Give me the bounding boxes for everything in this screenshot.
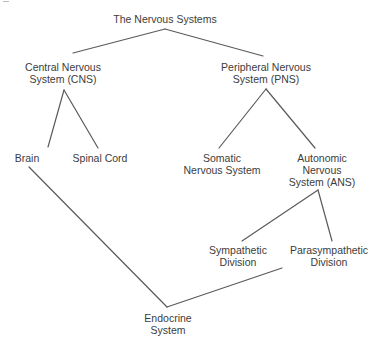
node-ans-line-2: Nervous (289, 164, 356, 176)
node-root-label: The Nervous Systems (113, 13, 216, 25)
node-endocrine: Endocrine System (144, 312, 191, 336)
edge-cns-brain (48, 90, 64, 147)
edge-pns-ans (266, 89, 315, 148)
node-ans: Autonomic Nervous System (ANS) (289, 152, 356, 188)
edge-root-cns (73, 29, 165, 53)
edge-root-pns (165, 29, 263, 56)
node-endocrine-line-2: System (144, 324, 191, 336)
node-sympathetic: Sympathetic Division (209, 244, 267, 268)
node-sympathetic-line-2: Division (209, 256, 267, 268)
node-parasympathetic-line-2: Division (290, 256, 368, 268)
node-endocrine-line-1: Endocrine (144, 312, 191, 324)
node-ans-line-1: Autonomic (289, 152, 356, 164)
node-root: The Nervous Systems (113, 13, 216, 25)
node-cns-line-2: System (CNS) (25, 73, 101, 85)
node-cns: Central Nervous System (CNS) (25, 61, 101, 85)
node-parasympathetic: Parasympathetic Division (290, 244, 368, 268)
node-somatic-line-2: Nervous System (183, 164, 260, 176)
node-somatic-line-1: Somatic (183, 152, 260, 164)
node-parasympathetic-line-1: Parasympathetic (290, 244, 368, 256)
node-brain-label: Brain (15, 152, 40, 164)
edge-ans-parasympathetic (318, 190, 332, 241)
edge-brain-endocrine (29, 167, 167, 307)
node-pns-line-2: System (PNS) (221, 73, 311, 85)
node-cns-line-1: Central Nervous (25, 61, 101, 73)
edge-cns-spinal-cord (64, 90, 98, 148)
node-ans-line-3: System (ANS) (289, 176, 356, 188)
node-pns: Peripheral Nervous System (PNS) (221, 61, 311, 85)
node-spinal-cord: Spinal Cord (73, 152, 128, 164)
edge-ans-sympathetic (242, 190, 318, 241)
node-pns-line-1: Peripheral Nervous (221, 61, 311, 73)
node-brain: Brain (15, 152, 40, 164)
node-somatic: Somatic Nervous System (183, 152, 260, 176)
nervous-systems-diagram: The Nervous Systems Central Nervous Syst… (0, 0, 381, 338)
edge-parasympathetic-endocrine (167, 268, 282, 307)
edge-pns-somatic (219, 89, 266, 148)
node-sympathetic-line-1: Sympathetic (209, 244, 267, 256)
node-spinal-cord-label: Spinal Cord (73, 152, 128, 164)
